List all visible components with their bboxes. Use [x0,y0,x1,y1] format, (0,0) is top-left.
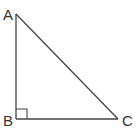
side-ac [16,14,118,119]
right-angle-marker [16,109,27,119]
triangle-diagram: A B C [0,0,139,132]
vertex-label-b: B [3,112,13,129]
vertex-label-a: A [3,6,13,23]
vertex-label-c: C [122,112,133,129]
